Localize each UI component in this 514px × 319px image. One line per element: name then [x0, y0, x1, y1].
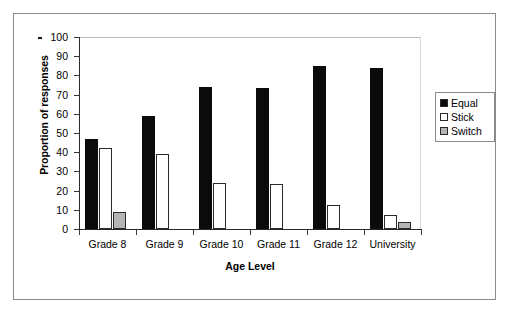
y-axis-tick-label: 80	[28, 70, 68, 80]
y-axis-tick-label: 50	[28, 128, 68, 138]
legend-swatch-switch-icon	[440, 127, 448, 135]
legend-swatch-stick-icon	[440, 113, 448, 121]
y-axis-tick-label: 10	[28, 205, 68, 215]
x-axis-tick	[79, 230, 80, 235]
chart-frame: Proportion of responses 1009080706050403…	[13, 13, 496, 300]
legend-item-stick: Stick	[440, 110, 491, 124]
x-axis-label-grade-12: Grade 12	[307, 238, 364, 250]
y-axis-tick-label: 30	[28, 166, 68, 176]
x-axis-label-university: University	[364, 238, 421, 250]
bar-group	[85, 37, 142, 229]
y-axis-tick-label: 70	[28, 90, 68, 100]
bar-stick-grade-9	[156, 154, 169, 229]
bar-group	[199, 37, 256, 229]
legend-item-switch: Switch	[440, 124, 491, 138]
x-axis-label-grade-10: Grade 10	[193, 238, 250, 250]
legend-swatch-equal-icon	[440, 99, 448, 107]
bar-switch-grade-8	[113, 212, 126, 229]
bar-equal-university	[370, 68, 383, 229]
x-axis-tick	[364, 230, 365, 235]
bar-stick-grade-8	[99, 148, 112, 229]
bar-equal-grade-8	[85, 139, 98, 229]
bar-group	[313, 37, 370, 229]
y-axis-tick-label: 60	[28, 109, 68, 119]
bar-stick-grade-12	[327, 205, 340, 229]
x-axis-tick	[136, 230, 137, 235]
x-axis-tick	[421, 230, 422, 235]
bar-equal-grade-12	[313, 66, 326, 229]
y-axis-tick-label: 20	[28, 186, 68, 196]
x-axis-tick	[250, 230, 251, 235]
legend-label: Equal	[451, 97, 478, 109]
bar-equal-grade-11	[256, 88, 269, 229]
legend-item-equal: Equal	[440, 96, 491, 110]
y-axis-tick-label: 100	[28, 32, 68, 42]
legend-label: Stick	[451, 111, 474, 123]
bar-equal-grade-9	[142, 116, 155, 229]
x-axis-tick	[307, 230, 308, 235]
x-axis-title: Age Level	[79, 260, 421, 272]
bar-group	[142, 37, 199, 229]
x-axis-label-grade-8: Grade 8	[79, 238, 136, 250]
bar-group	[256, 37, 313, 229]
x-axis-label-grade-11: Grade 11	[250, 238, 307, 250]
x-axis-label-grade-9: Grade 9	[136, 238, 193, 250]
bar-stick-grade-11	[270, 184, 283, 229]
bar-stick-grade-10	[213, 183, 226, 229]
bar-group	[370, 37, 427, 229]
bar-switch-university	[398, 222, 411, 229]
chart-legend: EqualStickSwitch	[435, 92, 495, 142]
bar-stick-university	[384, 215, 397, 229]
y-axis-tick-label: 0	[28, 224, 68, 234]
legend-label: Switch	[451, 125, 482, 137]
y-axis-tick-label: 90	[28, 51, 68, 61]
y-axis-tick-label: 40	[28, 147, 68, 157]
x-axis-tick	[193, 230, 194, 235]
bar-equal-grade-10	[199, 87, 212, 229]
bars-layer	[80, 37, 422, 229]
